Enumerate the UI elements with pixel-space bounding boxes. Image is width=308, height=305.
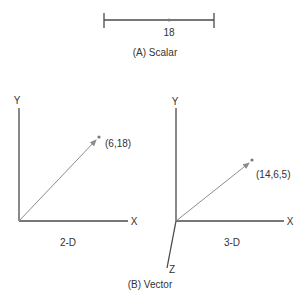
scalar-value-label: 18 <box>163 27 175 38</box>
scalar-panel: 18 (A) Scalar <box>104 13 214 58</box>
3d-y-axis-label: Y <box>172 96 179 107</box>
scalar-vector-diagram: 18 (A) Scalar Y X (6,18) 2-D Y X Z (14,6… <box>0 0 308 305</box>
2d-vector-arrow <box>19 140 96 221</box>
3d-z-axis <box>167 221 176 268</box>
2d-x-axis-label: X <box>131 216 138 227</box>
vector-2d-panel: Y X (6,18) 2-D <box>14 95 138 248</box>
3d-vector-arrow <box>176 163 249 221</box>
3d-point-label: (14,6,5) <box>256 169 290 180</box>
3d-vector-point <box>250 158 253 161</box>
3d-caption: 3-D <box>224 237 240 248</box>
vector-3d-panel: Y X Z (14,6,5) 3-D <box>167 96 294 275</box>
scalar-caption: (A) Scalar <box>133 47 178 58</box>
2d-vector-point <box>97 135 100 138</box>
3d-x-axis-label: X <box>287 216 294 227</box>
3d-z-axis-label: Z <box>169 264 175 275</box>
2d-caption: 2-D <box>60 237 76 248</box>
vector-caption: (B) Vector <box>128 279 173 290</box>
2d-y-axis-label: Y <box>14 95 21 106</box>
2d-point-label: (6,18) <box>105 138 131 149</box>
scalar-point <box>167 18 170 21</box>
